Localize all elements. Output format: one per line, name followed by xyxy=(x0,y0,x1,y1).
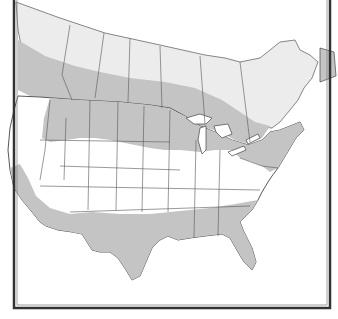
edge-note: ~ xyxy=(0,44,2,49)
range-map: ~ xyxy=(0,0,338,319)
map-canvas xyxy=(0,0,338,319)
maritimes xyxy=(320,48,336,82)
